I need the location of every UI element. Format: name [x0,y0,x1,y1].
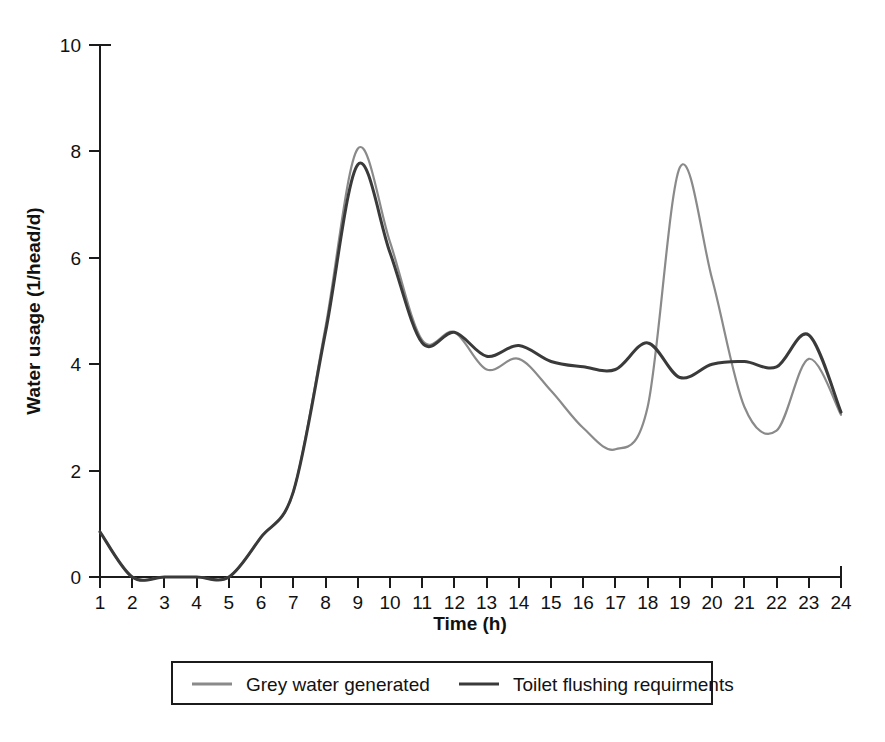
x-tick-label: 3 [159,592,170,613]
x-tick-label: 1 [95,592,106,613]
x-tick-label: 24 [830,592,852,613]
x-tick-label: 22 [766,592,787,613]
figure-container: 0246810 12345678910111213141516171819202… [0,0,885,742]
y-tick-label: 10 [60,35,81,56]
x-tick-label: 2 [127,592,138,613]
x-tick-label: 10 [379,592,400,613]
x-tick-label: 9 [352,592,363,613]
legend-label-grey-water: Grey water generated [246,674,430,695]
x-tick-label: 5 [224,592,235,613]
line-chart: 0246810 12345678910111213141516171819202… [0,0,885,742]
x-tick-label: 23 [798,592,819,613]
x-axis-title: Time (h) [433,613,507,634]
x-tick-label: 8 [320,592,331,613]
y-tick-label: 2 [70,461,81,482]
y-tick-label: 8 [70,141,81,162]
x-tick-label: 13 [476,592,497,613]
y-tick-label: 6 [70,248,81,269]
y-tick-label: 0 [70,567,81,588]
x-tick-label: 12 [444,592,465,613]
x-tick-label: 4 [191,592,202,613]
x-tick-label: 6 [256,592,267,613]
x-tick-label: 20 [702,592,723,613]
x-tick-label: 7 [288,592,299,613]
x-tick-label: 18 [637,592,658,613]
x-tick-label: 21 [734,592,755,613]
x-tick-label: 11 [412,592,432,613]
legend-label-toilet-flushing: Toilet flushing requirments [513,674,734,695]
y-tick-label: 4 [70,354,81,375]
x-tick-label: 15 [540,592,561,613]
x-tick-label: 16 [573,592,594,613]
y-axis-title: Water usage (1/head/d) [23,207,44,414]
x-tick-label: 19 [669,592,690,613]
x-tick-label: 14 [508,592,530,613]
x-tick-label: 17 [605,592,626,613]
